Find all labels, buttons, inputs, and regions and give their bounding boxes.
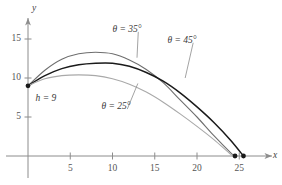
endpoint-marker — [26, 83, 31, 88]
theta-35-annotation: θ = 35° — [113, 25, 142, 35]
endpoint-marker — [241, 154, 246, 159]
theta-45-annotation: θ = 45° — [167, 36, 196, 46]
theta-25-annotation: θ = 25° — [102, 102, 131, 112]
launch-height-annotation: h = 9 — [36, 94, 57, 104]
x-axis-label: x — [273, 151, 277, 161]
x-tick-label: 5 — [58, 164, 82, 174]
trajectory-curves-group — [28, 52, 243, 156]
annotation-leader-line — [185, 43, 193, 78]
trajectory-curve — [28, 63, 243, 156]
y-tick-label: 10 — [0, 73, 21, 83]
trajectory-curve — [28, 52, 235, 156]
trajectory-curve — [28, 75, 234, 156]
y-tick-label: 15 — [0, 34, 21, 44]
y-tick-label: 5 — [0, 112, 21, 122]
x-tick-label: 20 — [185, 164, 209, 174]
x-tick-label: 15 — [143, 164, 167, 174]
x-tick-label: 25 — [227, 164, 251, 174]
annotation-leader-line — [137, 32, 138, 58]
projectile-trajectory-figure: y x h = 9 θ = 35° θ = 45° θ = 25° 510152… — [0, 0, 282, 185]
y-axis-label: y — [32, 4, 36, 14]
endpoint-marker — [233, 154, 238, 159]
x-tick-label: 10 — [101, 164, 125, 174]
